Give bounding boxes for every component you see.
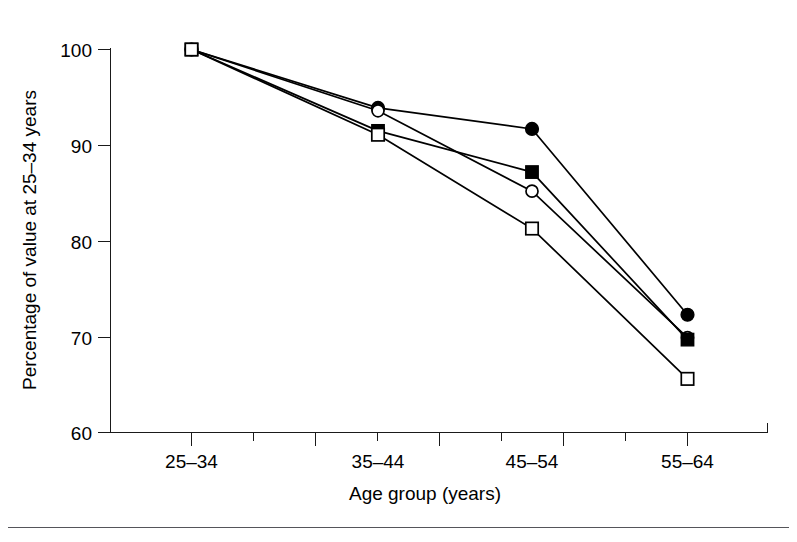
series-open-square-marker-25–34 (185, 43, 197, 55)
series-filled-circle-marker-55–64 (681, 308, 694, 321)
series-open-square-marker-45–54 (526, 222, 538, 234)
series-open-square-marker-55–64 (681, 373, 693, 385)
y-tick-label-80: 80 (71, 232, 92, 253)
series-open-circle-marker-45–54 (526, 185, 538, 197)
y-tick-label-90: 90 (71, 136, 92, 157)
y-tick-label-70: 70 (71, 328, 92, 349)
x-axis-title: Age group (years) (349, 483, 501, 504)
y-tick-label-100: 100 (60, 40, 92, 61)
x-tick-label-45-54: 45–54 (506, 451, 559, 472)
series-open-square-marker-35–44 (372, 129, 384, 141)
x-tick-label-25-34: 25–34 (165, 451, 218, 472)
y-tick-label-60: 60 (71, 423, 92, 444)
footer-divider (0, 522, 797, 532)
y-axis-title: Percentage of value at 25–34 years (19, 90, 40, 390)
line-chart: 100 90 80 70 60 25–34 35–44 45–54 55–64 … (0, 0, 797, 542)
figure-page: 100 90 80 70 60 25–34 35–44 45–54 55–64 … (0, 0, 797, 542)
x-tick-label-35-44: 35–44 (352, 451, 405, 472)
series-open-circle-marker-35–44 (372, 105, 384, 117)
series-filled-circle-marker-45–54 (526, 123, 539, 136)
series-filled-square-marker-55–64 (681, 333, 693, 345)
series-filled-square-marker-45–54 (526, 166, 538, 178)
x-tick-label-55-64: 55–64 (661, 451, 714, 472)
